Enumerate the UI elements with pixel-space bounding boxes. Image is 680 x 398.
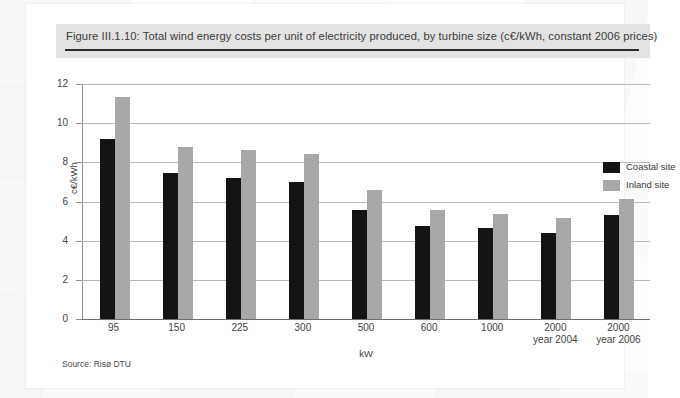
y-tick-mark [76, 280, 82, 281]
bar-group [163, 84, 193, 319]
legend-swatch-coastal-icon [603, 162, 620, 173]
bar-coastal [163, 173, 178, 319]
x-tick-label: 600 [397, 322, 461, 334]
title-rule [65, 49, 639, 51]
bar-coastal [289, 182, 304, 319]
y-tick-label: 12 [34, 78, 68, 89]
bar-group [226, 84, 256, 319]
bar-group [289, 84, 319, 319]
bar-coastal [478, 228, 493, 319]
figure-title: Figure III.1.10: Total wind energy costs… [66, 30, 646, 42]
x-tick-label: 225 [208, 322, 272, 334]
source-note: Source: Risø DTU [62, 359, 131, 369]
y-tick-mark [76, 319, 82, 320]
bar-inland [556, 218, 571, 319]
bar-coastal [352, 210, 367, 319]
y-tick-mark [76, 84, 82, 85]
legend-label-inland: Inland site [626, 179, 669, 190]
bar-group [478, 84, 508, 319]
bar-group [352, 84, 382, 319]
y-tick-label: 4 [34, 235, 68, 246]
bar-group [604, 84, 634, 319]
y-tick-label: 10 [34, 117, 68, 128]
bar-inland [304, 154, 319, 319]
legend-item-inland: Inland site [603, 178, 680, 193]
legend-label-coastal: Coastal site [626, 161, 676, 172]
bar-group [541, 84, 571, 319]
x-tick-label: 2000year 2004 [523, 322, 587, 346]
plot-area: 024681012 c€/kWh Coastal site Inland sit… [82, 84, 650, 319]
x-tick-label: 1000 [460, 322, 524, 334]
x-tick-label: 2000year 2006 [586, 322, 650, 346]
x-axis [82, 319, 650, 320]
bar-coastal [415, 226, 430, 319]
bar-inland [430, 210, 445, 319]
x-tick-label: 500 [334, 322, 398, 334]
figure-card: Figure III.1.10: Total wind energy costs… [26, 4, 624, 388]
bar-inland [178, 147, 193, 319]
bar-coastal [604, 215, 619, 319]
legend-swatch-inland-icon [603, 180, 620, 191]
bar-group [415, 84, 445, 319]
y-tick-label: 8 [34, 156, 68, 167]
x-tick-label: 150 [145, 322, 209, 334]
y-tick-mark [76, 202, 82, 203]
bar-group [100, 84, 130, 319]
bar-inland [241, 150, 256, 319]
y-tick-mark [76, 123, 82, 124]
legend-item-coastal: Coastal site [603, 160, 680, 175]
bar-coastal [541, 233, 556, 319]
bar-inland [367, 190, 382, 319]
x-tick-label: 300 [271, 322, 335, 334]
bar-inland [115, 97, 130, 319]
chart-legend: Coastal site Inland site [603, 160, 680, 196]
y-axis-title: c€/kWh [68, 162, 79, 194]
x-tick-label: 95 [82, 322, 146, 334]
bar-inland [619, 199, 634, 319]
bar-coastal [226, 178, 241, 319]
x-axis-title: kW [82, 348, 650, 359]
bar-coastal [100, 139, 115, 319]
y-tick-label: 6 [34, 196, 68, 207]
y-tick-label: 0 [34, 313, 68, 324]
y-tick-mark [76, 241, 82, 242]
bar-inland [493, 214, 508, 319]
bar-series-layer [83, 84, 650, 319]
y-tick-label: 2 [34, 274, 68, 285]
